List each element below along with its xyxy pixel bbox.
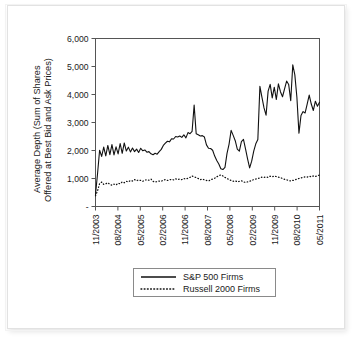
x-axis-ticks: 11/200308/200405/200502/200611/200608/20… (91, 207, 325, 246)
y-axis-label-line2: Offered at Best Bid and Ask Prices) (43, 58, 53, 202)
x-tick-label: 05/2008 (225, 214, 235, 245)
y-tick-label: 2,000 (67, 146, 89, 156)
legend-label-russell2000: Russell 2000 Firms (183, 284, 261, 294)
figure-root: Average Depth (Sum of Shares Offered at … (0, 0, 356, 339)
x-tick-label: 11/2003 (91, 214, 101, 245)
chart-legend: S&P 500 Firms Russell 2000 Firms (134, 269, 276, 297)
chart-container: Average Depth (Sum of Shares Offered at … (0, 0, 356, 339)
y-tick-label: - (86, 202, 89, 212)
chart-svg: Average Depth (Sum of Shares Offered at … (0, 0, 356, 339)
x-tick-label: 08/2004 (113, 214, 123, 245)
series-line-sp500 (96, 65, 320, 195)
x-tick-label: 05/2011 (315, 214, 325, 245)
y-tick-label: 5,000 (67, 62, 89, 72)
y-axis-label-line1: Average Depth (Sum of Shares (32, 65, 42, 193)
x-tick-label: 11/2009 (270, 214, 280, 245)
y-tick-label: 4,000 (67, 90, 89, 100)
x-tick-label: 02/2006 (158, 214, 168, 245)
x-tick-label: 08/2010 (292, 214, 302, 245)
series-line-russell2000 (96, 175, 320, 196)
x-tick-label: 02/2009 (248, 214, 258, 245)
x-tick-label: 08/2007 (203, 214, 213, 245)
y-axis-ticks: 6,0005,0004,0003,0002,0001,000- (67, 34, 96, 212)
y-tick-label: 3,000 (67, 118, 89, 128)
y-tick-label: 6,000 (67, 34, 89, 44)
x-tick-label: 11/2006 (180, 214, 190, 245)
legend-label-sp500: S&P 500 Firms (183, 272, 244, 282)
x-tick-label: 05/2005 (136, 214, 146, 245)
y-axis-label: Average Depth (Sum of Shares Offered at … (32, 58, 53, 202)
y-tick-label: 1,000 (67, 174, 89, 184)
